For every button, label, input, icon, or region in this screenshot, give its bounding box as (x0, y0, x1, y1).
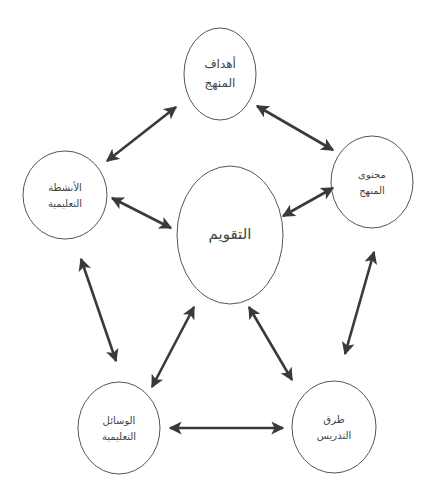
node-label-curriculum-objectives-line1: أهداف (204, 55, 236, 74)
double-arrow-curriculum-objectives-curriculum-content (257, 106, 333, 150)
double-arrow-educational-activities-evaluation (112, 198, 171, 228)
node-label-evaluation-line1: التقويم (209, 223, 252, 246)
double-arrow-evaluation-teaching-methods (249, 307, 292, 380)
node-label-educational-activities: الأنشطة التعليمية (48, 180, 82, 211)
node-label-teaching-methods-line2: التدريس (317, 427, 351, 443)
node-label-educational-activities-line2: التعليمية (48, 195, 82, 211)
nodes-layer (23, 28, 413, 474)
double-arrow-educational-activities-educational-aids (81, 259, 116, 361)
node-label-teaching-methods-line1: طرق (317, 412, 351, 428)
node-label-curriculum-content-line2: المنهج (358, 182, 386, 198)
double-arrow-educational-activities-curriculum-objectives (107, 107, 176, 161)
node-label-educational-aids: الوسائل التعليمية (102, 413, 136, 444)
node-label-educational-aids-line2: التعليمية (102, 428, 136, 444)
node-label-curriculum-objectives: أهداف المنهج (204, 55, 236, 92)
double-arrow-curriculum-content-teaching-methods (345, 252, 374, 354)
arrows-layer (81, 106, 374, 428)
double-arrow-curriculum-content-evaluation (283, 188, 333, 216)
node-label-curriculum-content-line1: محتوى (358, 167, 386, 183)
node-label-curriculum-content: محتوى المنهج (358, 167, 386, 198)
node-label-educational-activities-line1: الأنشطة (48, 180, 82, 196)
node-label-evaluation: التقويم (209, 223, 252, 246)
node-label-teaching-methods: طرق التدريس (317, 412, 351, 443)
curriculum-elements-diagram: التقويم أهداف المنهج محتوى المنهج الأنشط… (0, 0, 435, 498)
node-label-educational-aids-line1: الوسائل (102, 413, 136, 429)
node-label-curriculum-objectives-line2: المنهج (204, 74, 236, 93)
double-arrow-evaluation-educational-aids (152, 307, 194, 387)
